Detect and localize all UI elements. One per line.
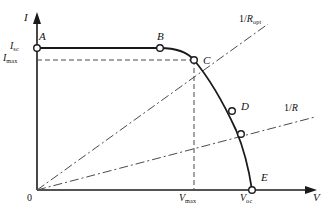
load-line-label-r: 1/R: [284, 103, 298, 113]
point-label-e: E: [261, 172, 268, 183]
point-label-c: C: [203, 55, 210, 66]
x-tick-vmax: Vmax: [179, 193, 196, 203]
origin-label: 0: [27, 193, 32, 203]
point-label-b: B: [157, 31, 164, 42]
iv-curve-figure: I V 0 Isc Imax Vmax Voc A B C D E 1/Ropt…: [0, 0, 326, 213]
marker-point-c: [191, 57, 198, 64]
y-tick-isc: Isc: [10, 41, 19, 51]
y-axis-arrow: [33, 12, 41, 24]
x-tick-voc: Voc: [240, 193, 252, 203]
marker-point-d: [229, 108, 236, 115]
marker-point-r-intersection: [238, 131, 245, 138]
y-tick-imax: Imax: [3, 53, 18, 63]
load-line-label-r-opt: 1/Ropt: [239, 14, 261, 24]
point-label-d: D: [241, 101, 249, 112]
marker-point-a: [34, 45, 41, 52]
x-axis-label: V: [313, 192, 320, 203]
point-label-a: A: [39, 31, 46, 42]
load-line-r: [37, 117, 315, 190]
iv-curve: [37, 48, 252, 190]
marker-point-b: [157, 45, 164, 52]
y-axis-label: I: [24, 12, 28, 23]
